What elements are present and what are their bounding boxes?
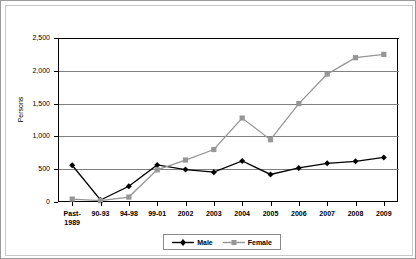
legend-entry-male: Male	[172, 238, 213, 247]
data-point-female-3	[155, 167, 160, 172]
data-point-female-7	[268, 137, 273, 142]
y-tick-label-1500: 1,500	[32, 100, 50, 108]
x-tick-label-line: 2009	[376, 209, 392, 218]
x-tick-mark-11	[384, 202, 385, 206]
data-point-female-6	[240, 115, 245, 120]
x-tick-label-2: 94-98	[120, 209, 138, 218]
x-tick-label-1: 90-93	[92, 209, 110, 218]
data-point-female-4	[183, 157, 188, 162]
data-point-male-6	[239, 158, 245, 164]
x-tick-label-7: 2005	[263, 209, 279, 218]
data-point-female-2	[126, 194, 131, 199]
y-tick-label-500: 500	[38, 165, 50, 173]
x-tick-label-3: 99-01	[148, 209, 166, 218]
legend-entry-female: Female	[223, 238, 272, 247]
data-point-female-10	[353, 55, 358, 60]
data-point-male-11	[381, 154, 387, 160]
x-tick-label-8: 2006	[291, 209, 307, 218]
x-tick-label-line: 2004	[234, 209, 250, 218]
x-tick-label-line: 2008	[348, 209, 364, 218]
y-tick-label-2000: 2,000	[32, 67, 50, 75]
x-tick-label-10: 2008	[348, 209, 364, 218]
x-tick-mark-4	[186, 202, 187, 206]
data-point-male-9	[324, 160, 330, 166]
x-tick-mark-9	[327, 202, 328, 206]
series-female	[70, 52, 387, 203]
data-point-female-5	[211, 147, 216, 152]
data-point-male-8	[296, 165, 302, 171]
chart-inner-frame: Persons 05001,0001,5002,0002,500 Past-19…	[5, 5, 413, 256]
data-point-male-7	[268, 171, 274, 177]
x-tick-mark-10	[356, 202, 357, 206]
y-tick-label-2500: 2,500	[32, 34, 50, 42]
x-tick-mark-0	[72, 202, 73, 206]
y-tick-label-1000: 1,000	[32, 132, 50, 140]
x-tick-mark-1	[101, 202, 102, 206]
y-axis-labels: 05001,0001,5002,0002,500	[6, 6, 58, 259]
x-tick-label-line: 94-98	[120, 209, 138, 218]
series-line-male	[72, 157, 384, 200]
data-point-male-10	[353, 158, 359, 164]
data-point-male-4	[183, 167, 189, 173]
legend-label-female: Female	[248, 239, 272, 246]
chart-outer-frame: Persons 05001,0001,5002,0002,500 Past-19…	[0, 0, 416, 259]
x-tick-label-line: 1989	[64, 218, 81, 227]
y-tick-label-0: 0	[46, 198, 50, 206]
x-tick-label-line: 90-93	[92, 209, 110, 218]
x-tick-mark-6	[242, 202, 243, 206]
series-line-female	[72, 54, 384, 200]
data-point-female-0	[70, 196, 75, 201]
x-tick-label-line: 2005	[263, 209, 279, 218]
x-tick-label-6: 2004	[234, 209, 250, 218]
legend-marker-male-icon	[172, 238, 194, 247]
x-tick-label-line: 2007	[319, 209, 335, 218]
legend-marker-female-icon	[223, 238, 245, 247]
x-tick-label-11: 2009	[376, 209, 392, 218]
x-tick-label-0: Past-1989	[64, 209, 81, 227]
legend-label-male: Male	[197, 239, 213, 246]
x-tick-label-line: 2003	[206, 209, 222, 218]
data-point-female-9	[325, 71, 330, 76]
x-tick-label-4: 2002	[178, 209, 194, 218]
series-layer	[58, 38, 398, 202]
x-tick-label-5: 2003	[206, 209, 222, 218]
x-tick-label-line: Past-	[64, 209, 81, 218]
x-tick-label-9: 2007	[319, 209, 335, 218]
data-point-female-8	[296, 101, 301, 106]
x-tick-mark-3	[157, 202, 158, 206]
x-tick-label-line: 2006	[291, 209, 307, 218]
x-tick-mark-2	[129, 202, 130, 206]
data-point-male-5	[211, 169, 217, 175]
x-tick-mark-7	[271, 202, 272, 206]
data-point-female-11	[381, 52, 386, 57]
x-tick-mark-8	[299, 202, 300, 206]
y-tick-mark-0	[54, 202, 58, 203]
chart-legend: Male Female	[163, 234, 281, 250]
x-tick-mark-5	[214, 202, 215, 206]
series-male	[69, 154, 387, 203]
x-tick-label-line: 2002	[178, 209, 194, 218]
x-tick-label-line: 99-01	[148, 209, 166, 218]
